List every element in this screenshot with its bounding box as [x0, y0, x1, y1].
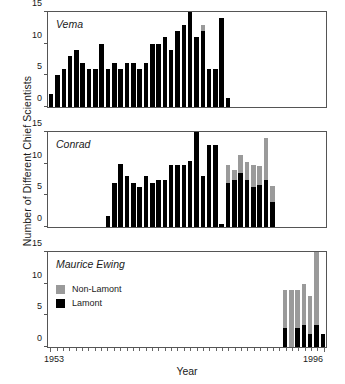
bar-vema-1973	[175, 31, 180, 107]
x-tick-1996	[324, 348, 325, 352]
legend: Non-Lamont Lamont	[56, 284, 122, 312]
bar-vema-1958	[80, 63, 85, 107]
bar-conrad-1978	[207, 145, 212, 227]
bar-vema-1968	[144, 63, 149, 107]
bar-segment-lamont	[245, 180, 250, 227]
bar-conrad-1970	[156, 180, 161, 228]
bar-segment-lamont	[156, 44, 161, 107]
legend-swatch-non-lamont-icon	[56, 285, 65, 294]
bar-ewing-1990	[283, 290, 288, 347]
x-tick-1984	[247, 348, 248, 351]
bar-conrad-1986	[257, 166, 262, 227]
legend-item-lamont: Lamont	[56, 298, 122, 308]
y-tick-vema-15	[44, 11, 48, 12]
y-tick-conrad-10	[44, 163, 48, 164]
bar-vema-1972	[169, 50, 174, 107]
bar-vema-1960	[93, 69, 98, 107]
bar-segment-non-lamont	[257, 166, 262, 185]
x-tick-1979	[216, 348, 217, 351]
bar-segment-lamont	[156, 180, 161, 228]
legend-item-non-lamont: Non-Lamont	[56, 284, 122, 294]
bar-conrad-1988	[270, 186, 275, 227]
bar-segment-lamont	[213, 145, 218, 227]
bar-vema-1980	[219, 18, 224, 107]
x-tick-1961	[101, 348, 102, 351]
bar-vema-1964	[118, 69, 123, 107]
y-tick-label-ewing-15: 15	[32, 239, 42, 248]
bar-segment-non-lamont	[302, 284, 307, 325]
x-tick-1977	[203, 348, 204, 351]
bar-ewing-1992	[295, 290, 300, 347]
y-tick-vema-10	[44, 43, 48, 44]
x-tick-1989	[279, 348, 280, 351]
y-tick-ewing-5	[44, 314, 48, 315]
bar-segment-lamont	[194, 37, 199, 107]
y-tick-conrad-5	[44, 194, 48, 195]
bar-vema-1977	[201, 25, 206, 107]
plot-area-vema	[48, 12, 326, 107]
x-tick-1970	[158, 348, 159, 351]
x-tick-1968	[146, 348, 147, 351]
bar-segment-non-lamont	[245, 162, 250, 180]
bars-vema	[48, 12, 326, 107]
y-tick-vema-0	[44, 106, 48, 107]
bar-segment-non-lamont	[270, 186, 275, 202]
bar-segment-lamont	[264, 180, 269, 227]
panel-title-vema: Vema	[56, 18, 83, 30]
bar-conrad-1962	[106, 216, 111, 227]
x-tick-1978	[209, 348, 210, 351]
bar-segment-lamont	[125, 176, 130, 227]
bar-conrad-1984	[245, 162, 250, 227]
bar-conrad-1987	[264, 138, 269, 227]
bar-segment-lamont	[137, 69, 142, 107]
bar-segment-lamont	[112, 183, 117, 227]
bar-segment-lamont	[49, 94, 54, 107]
y-tick-label-conrad-0: 0	[37, 214, 42, 223]
bar-ewing-1993	[302, 284, 307, 347]
bar-segment-lamont	[232, 180, 237, 228]
x-axis-title: Year	[47, 365, 327, 377]
x-tick-1963	[114, 348, 115, 351]
bar-ewing-1994	[308, 296, 313, 347]
bar-segment-lamont	[207, 69, 212, 107]
x-tick-1967	[139, 348, 140, 351]
bar-segment-lamont	[118, 69, 123, 107]
x-tick-1953	[50, 348, 51, 352]
bar-segment-non-lamont	[283, 290, 288, 328]
y-tick-vema-5	[44, 74, 48, 75]
y-tick-label-ewing-5: 5	[37, 302, 42, 311]
x-tick-1976	[197, 348, 198, 351]
bar-conrad-1966	[131, 183, 136, 227]
bar-segment-lamont	[283, 328, 288, 347]
panel-vema: Vema 051015	[47, 11, 327, 108]
panel-conrad: Conrad 051015	[47, 131, 327, 228]
bar-segment-lamont	[188, 12, 193, 107]
bar-segment-non-lamont	[314, 252, 319, 325]
bar-segment-non-lamont	[264, 138, 269, 179]
bar-vema-1979	[213, 69, 218, 107]
bar-conrad-1969	[150, 183, 155, 227]
x-tick-1971	[165, 348, 166, 351]
bar-segment-non-lamont	[238, 155, 243, 173]
panel-title-maurice-ewing: Maurice Ewing	[56, 258, 125, 270]
bar-segment-lamont	[321, 334, 326, 347]
bar-segment-lamont	[226, 183, 231, 227]
x-tick-1995	[317, 348, 318, 351]
x-tick-1975	[190, 348, 191, 351]
x-tick-1985	[254, 348, 255, 351]
bar-segment-lamont	[257, 185, 262, 227]
bar-vema-1959	[87, 69, 92, 107]
bar-vema-1974	[182, 25, 187, 107]
bar-conrad-1979	[213, 145, 218, 227]
bar-vema-1954	[55, 75, 60, 107]
bar-vema-1966	[131, 63, 136, 107]
bar-vema-1953	[49, 94, 54, 107]
bar-segment-lamont	[131, 63, 136, 107]
bar-conrad-1974	[182, 165, 187, 227]
bar-ewing-1995	[314, 252, 319, 347]
bar-conrad-1985	[251, 165, 256, 227]
bar-vema-1970	[156, 44, 161, 107]
bar-segment-non-lamont	[308, 296, 313, 334]
bar-vema-1971	[163, 37, 168, 107]
legend-label-lamont: Lamont	[72, 298, 102, 308]
